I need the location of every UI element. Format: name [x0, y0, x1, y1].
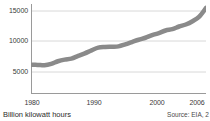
- x-tick-label-1990: 1990: [86, 99, 101, 107]
- x-tick-label-1980: 1980: [24, 99, 39, 107]
- data-series-line: [31, 8, 206, 65]
- chart-figure: 15000 10000 5000 19: [0, 0, 210, 121]
- axis-unit-caption: Billion kilowatt hours: [3, 110, 71, 119]
- y-tick-label-5000: 5000: [0, 68, 28, 76]
- y-tick-label-10000: 10000: [0, 37, 28, 45]
- plot-area: [31, 4, 206, 94]
- x-tick-label-2000: 2000: [149, 99, 164, 107]
- chart-svg: [31, 4, 206, 94]
- x-tick-label-2006: 2006: [189, 99, 204, 107]
- source-note: Source: EIA, 2: [167, 111, 209, 119]
- y-tick-label-15000: 15000: [0, 7, 28, 15]
